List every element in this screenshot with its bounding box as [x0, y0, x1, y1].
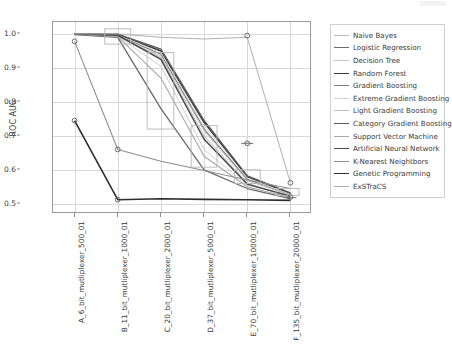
legend-item-label: Gradient Boosting — [353, 82, 417, 89]
legend-item-label: Decision Tree — [353, 57, 400, 64]
legend-item-artificial-neural-network[interactable]: Artificial Neural Network — [334, 142, 441, 155]
legend-swatch-line-icon — [334, 173, 349, 174]
legend-swatch-line-icon — [334, 110, 349, 111]
plot-area — [52, 21, 311, 213]
legend-item-light-gradient-boosting[interactable]: Light Gradient Boosting — [334, 105, 441, 118]
boxplot-box — [105, 29, 131, 44]
y-tick-mark — [17, 32, 20, 33]
x-tick-label: A_6_bit_mutliplexer_500_01 — [77, 221, 86, 323]
legend-item-label: ExSTraCS — [353, 183, 386, 190]
y-tick-mark — [17, 168, 20, 169]
legend-item-support-vector-machine[interactable]: Support Vector Machine — [334, 130, 441, 143]
x-tick-label: E_70_bit_mutliplexer_10000_01 — [249, 221, 258, 336]
legend-item-label: Category Gradient Boosting — [353, 120, 452, 127]
y-tick-mark — [17, 134, 20, 135]
legend-item-label: Support Vector Machine — [353, 133, 438, 140]
outlier-marker — [72, 118, 77, 123]
legend-swatch-line-icon — [334, 73, 349, 74]
legend-swatch-line-icon — [334, 136, 349, 137]
legend-swatch-line-icon — [334, 148, 349, 149]
legend-item-k-nearest-neightbors[interactable]: K-Nearest Neightbors — [334, 155, 441, 168]
y-tick-label: 0.7 — [4, 130, 16, 139]
outlier-marker — [72, 39, 77, 44]
legend-swatch-line-icon — [334, 47, 349, 48]
legend-item-decision-tree[interactable]: Decision Tree — [334, 54, 441, 67]
legend-item-label: Naive Bayes — [353, 32, 397, 39]
legend-swatch-line-icon — [334, 186, 349, 187]
y-tick-label: 1.0 — [4, 28, 16, 37]
legend-item-category-gradient-boosting[interactable]: Category Gradient Boosting — [334, 117, 441, 130]
outlier-marker — [288, 180, 293, 185]
legend-item-genetic-programming[interactable]: Genetic Programming — [334, 168, 441, 181]
legend-item-extreme-gradient-boosting[interactable]: Extreme Gradient Boosting — [334, 92, 441, 105]
x-tick-label: B_11_bit_mutliplexer_1000_01 — [120, 221, 129, 332]
y-tick-label: 0.6 — [4, 164, 16, 173]
legend-item-naive-bayes[interactable]: Naive Bayes — [334, 29, 441, 42]
legend-swatch-line-icon — [334, 85, 349, 86]
legend-item-exstracs[interactable]: ExSTraCS — [334, 180, 441, 193]
legend-swatch-line-icon — [334, 98, 349, 99]
corner-artifact — [420, 1, 446, 6]
legend-swatch-line-icon — [334, 35, 349, 36]
legend-item-label: Random Forest — [353, 70, 406, 77]
legend-swatch-line-icon — [334, 123, 349, 124]
boxplot-box — [276, 189, 299, 196]
boxplot-overlay — [53, 22, 312, 214]
legend-item-label: Artificial Neural Network — [353, 145, 440, 152]
y-tick-mark — [17, 66, 20, 67]
legend-item-label: Logistic Regression — [353, 44, 421, 51]
legend-item-label: K-Nearest Neightbors — [353, 158, 428, 165]
legend-swatch-line-icon — [334, 161, 349, 162]
outlier-marker — [115, 197, 120, 202]
boxplot-box — [234, 170, 260, 184]
outlier-marker — [115, 147, 120, 152]
y-axis: ROC AUC 0.50.60.70.80.91.0 — [0, 0, 52, 234]
y-tick-label: 0.8 — [4, 96, 16, 105]
x-tick-label: F_135_bit_mutliplexer_20000_01 — [292, 221, 301, 341]
legend: Naive BayesLogistic RegressionDecision T… — [330, 24, 445, 198]
legend-item-gradient-boosting[interactable]: Gradient Boosting — [334, 79, 441, 92]
legend-item-label: Light Gradient Boosting — [353, 107, 437, 114]
legend-item-label: Genetic Programming — [353, 170, 430, 177]
y-tick-label: 0.5 — [4, 198, 16, 207]
outlier-marker — [245, 33, 250, 38]
x-tick-label: C_20_bit_mutliplexer_2000_01 — [163, 221, 172, 332]
x-tick-label: D_37_bit_mutliplexer_5000_01 — [206, 221, 215, 333]
legend-item-random-forest[interactable]: Random Forest — [334, 67, 441, 80]
y-tick-label: 0.9 — [4, 62, 16, 71]
legend-item-label: Extreme Gradient Boosting — [353, 95, 449, 102]
y-axis-title: ROC AUC — [9, 83, 18, 153]
boxplot-box — [191, 126, 217, 167]
legend-swatch-line-icon — [334, 60, 349, 61]
boxplot-box — [147, 53, 174, 129]
y-tick-mark — [17, 100, 20, 101]
legend-item-logistic-regression[interactable]: Logistic Regression — [334, 42, 441, 55]
y-tick-mark — [17, 202, 20, 203]
